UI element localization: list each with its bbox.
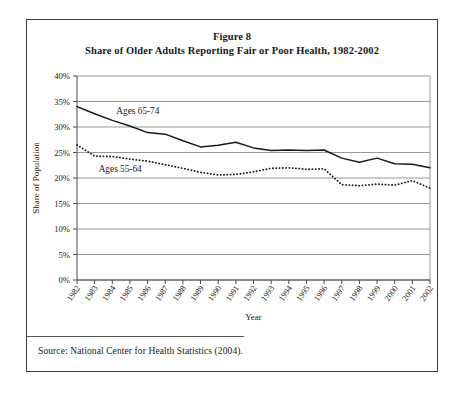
x-tick-label: 1986	[136, 284, 153, 303]
x-tick-label: 1994	[277, 283, 294, 303]
y-tick-label: 15%	[54, 199, 70, 209]
source-divider	[27, 336, 244, 337]
x-axis-title: Year	[245, 312, 262, 322]
x-tick-label: 1996	[312, 284, 329, 303]
x-tick-label: 2001	[401, 284, 418, 303]
y-tick-label: 35%	[54, 97, 70, 107]
x-tick-label: 1992	[242, 284, 259, 303]
y-tick-label: 5%	[59, 250, 70, 260]
x-tick-label: 1993	[259, 284, 276, 303]
x-tick-label: 1983	[83, 284, 100, 303]
x-tick-label: 1999	[365, 284, 382, 303]
figure-caption: Share of Older Adults Reporting Fair or …	[27, 44, 437, 58]
x-tick-label: 1991	[224, 284, 241, 303]
x-tick-label: 1987	[153, 284, 170, 303]
figure-title: Figure 8 Share of Older Adults Reporting…	[27, 30, 437, 58]
series-label-ages-55-64: Ages 55-64	[99, 164, 142, 174]
line-chart: 0%5%10%15%20%25%30%35%40% 19821983198419…	[27, 68, 439, 326]
x-tick-label: 1997	[330, 284, 347, 303]
y-tick-label: 25%	[54, 148, 70, 158]
x-tick-label: 1998	[348, 284, 365, 303]
x-tick-label: 1982	[65, 284, 82, 303]
x-tick-label: 2000	[383, 284, 400, 303]
source-note: Source: National Center for Health Stati…	[38, 346, 243, 356]
y-tick-label: 10%	[54, 224, 70, 234]
y-axis-title: Share of Population	[31, 142, 41, 214]
x-tick-label: 1990	[206, 284, 223, 303]
x-tick-label: 1989	[189, 284, 206, 303]
series-label-ages-65-74: Ages 65-74	[116, 106, 159, 116]
x-tick-label: 1995	[295, 284, 312, 303]
chart-plot-area: 0%5%10%15%20%25%30%35%40% 19821983198419…	[27, 68, 439, 326]
data-series	[77, 107, 430, 189]
series-annotations: Ages 65-74Ages 55-64	[99, 106, 160, 174]
x-axis: 1982198319841985198619871988198919901991…	[65, 280, 435, 303]
y-tick-label: 0%	[59, 275, 70, 285]
x-tick-label: 1984	[100, 283, 117, 303]
x-tick-label: 1988	[171, 284, 188, 303]
y-tick-label: 20%	[54, 173, 70, 183]
figure-number: Figure 8	[27, 30, 437, 44]
x-tick-label: 2002	[418, 284, 435, 303]
x-tick-label: 1985	[118, 284, 135, 303]
figure-container: Figure 8 Share of Older Adults Reporting…	[26, 19, 438, 372]
y-tick-label: 40%	[54, 71, 70, 81]
y-tick-label: 30%	[54, 122, 70, 132]
